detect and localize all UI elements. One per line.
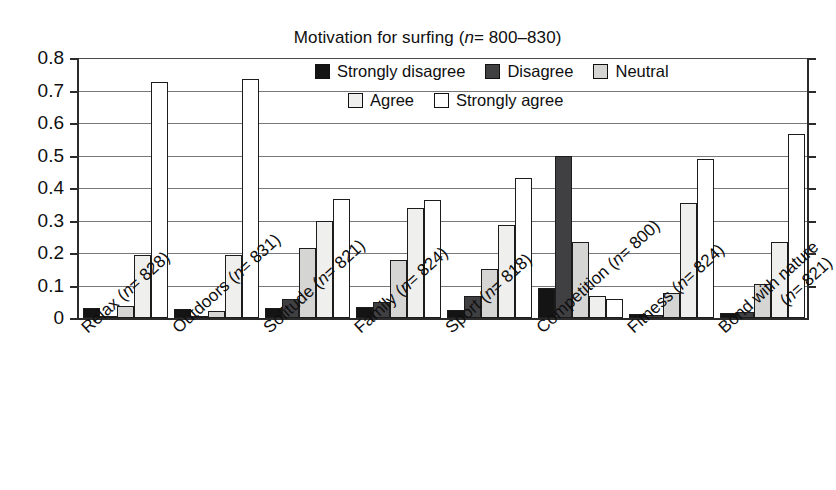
legend-item[interactable]: Strongly agree [434,91,563,110]
right-tick [807,156,816,158]
legend-item[interactable]: Agree [348,91,414,110]
x-axis-labels: Relax (n= 828)Outdoors (n= 831)Solitude … [77,322,836,490]
y-tick-label: 0.8 [38,48,64,67]
bar [606,299,623,318]
y-tick-label: 0.2 [38,243,64,262]
bar [151,82,168,318]
right-tick [807,123,816,125]
y-tick-label: 0.4 [38,178,64,197]
chart-figure: Motivation for surfing (n= 800–830) 00.1… [0,0,836,490]
legend-swatch-icon [485,64,500,79]
y-tick-label: 0.6 [38,113,64,132]
bar [589,296,606,318]
title-prefix: Motivation for surfing ( [294,28,465,47]
legend-label: Strongly disagree [337,62,465,81]
legend-label: Strongly agree [456,91,563,110]
y-tick: 0.6 [70,123,79,125]
legend-row-1: Strongly disagreeDisagreeNeutral [315,57,785,86]
right-tick [807,221,816,223]
y-tick: 0.5 [70,156,79,158]
title-suffix: = 800–830) [474,28,562,47]
bar [697,159,714,318]
legend-item[interactable]: Strongly disagree [315,62,465,81]
title-n-symbol: n [464,28,474,47]
legend-row-2: AgreeStrongly agree [315,86,785,115]
legend-swatch-icon [315,64,330,79]
legend-swatch-icon [348,93,363,108]
y-tick: 0.1 [70,286,79,288]
legend-label: Neutral [615,62,668,81]
legend-item[interactable]: Disagree [485,62,573,81]
y-tick: 0.3 [70,221,79,223]
right-tick [807,188,816,190]
y-tick-label: 0.7 [38,81,64,100]
y-tick-label: 0.1 [38,276,64,295]
legend-swatch-icon [434,93,449,108]
y-tick-label: 0.3 [38,211,64,230]
legend: Strongly disagreeDisagreeNeutral AgreeSt… [315,57,785,115]
legend-label: Agree [370,91,414,110]
y-tick: 0.8 [70,58,79,60]
right-tick [807,91,816,93]
y-tick-label: 0.5 [38,146,64,165]
y-tick: 0.7 [70,91,79,93]
legend-item[interactable]: Neutral [593,62,668,81]
y-tick: 0.2 [70,253,79,255]
legend-swatch-icon [593,64,608,79]
y-tick-label: 0 [53,308,64,327]
legend-label: Disagree [507,62,573,81]
right-tick [807,58,816,60]
bar [242,79,259,318]
y-tick: 0.4 [70,188,79,190]
bar [515,178,532,318]
